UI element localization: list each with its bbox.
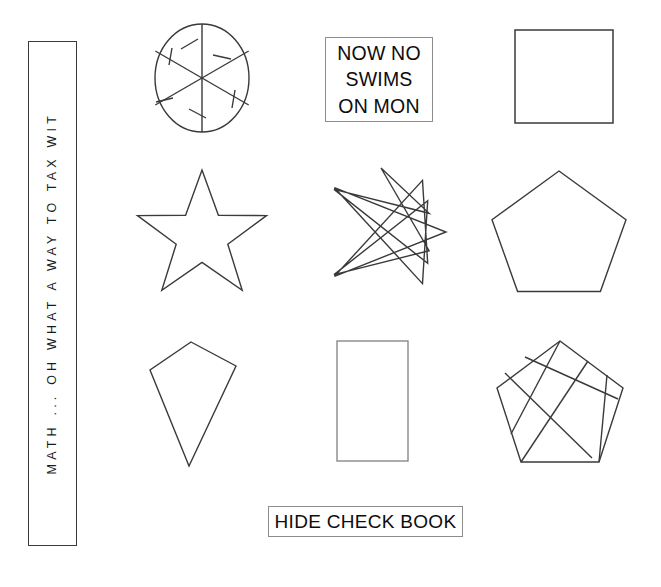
hide-check-book-text-box: HIDE CHECK BOOK bbox=[268, 506, 463, 537]
diagram-canvas: MATH ... OH WHAT A WAY TO TAX WIT NOW NO bbox=[0, 0, 661, 587]
figure-pentagon bbox=[490, 169, 628, 293]
figure-five-point-star bbox=[132, 168, 272, 298]
figure-eight-point-star bbox=[313, 166, 449, 298]
figure-square bbox=[514, 29, 614, 124]
figure-spoked-circle bbox=[143, 22, 261, 134]
now-no-line-2: SWIMS bbox=[345, 66, 412, 92]
now-no-text-box: NOW NO SWIMS ON MON bbox=[325, 37, 433, 122]
spoked-circle-icon bbox=[143, 22, 261, 134]
figure-kite bbox=[148, 340, 252, 468]
figure-pentagon-chords bbox=[495, 339, 625, 465]
now-no-line-1: NOW NO bbox=[337, 40, 421, 66]
five-point-star-icon bbox=[132, 168, 272, 298]
vertical-caption-box: MATH ... OH WHAT A WAY TO TAX WIT bbox=[28, 41, 77, 546]
pentagon-chords-icon bbox=[495, 339, 625, 465]
square-icon bbox=[514, 29, 614, 124]
eight-point-star-icon bbox=[313, 166, 449, 298]
rectangle-icon bbox=[336, 340, 409, 462]
now-no-line-3: ON MON bbox=[338, 93, 419, 119]
figure-rectangle bbox=[336, 340, 409, 462]
pentagon-icon bbox=[490, 169, 628, 293]
vertical-caption-text: MATH ... OH WHAT A WAY TO TAX WIT bbox=[46, 112, 59, 474]
kite-icon bbox=[148, 340, 252, 468]
hide-check-book-line-1: HIDE CHECK BOOK bbox=[275, 512, 457, 531]
